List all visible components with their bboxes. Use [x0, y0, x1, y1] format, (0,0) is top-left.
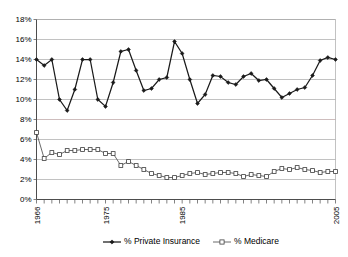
legend-label-medicare: % Medicare: [234, 236, 279, 246]
data-point-medicare-1985: [180, 174, 184, 178]
data-point-medicare-1973: [88, 148, 92, 152]
data-point-medicare-1991: [226, 171, 230, 175]
data-point-medicare-1994: [249, 173, 253, 177]
ytick-label-6: 6%: [20, 135, 32, 144]
data-point-medicare-2001: [303, 168, 307, 172]
legend-label-private-insurance: % Private Insurance: [124, 236, 200, 246]
data-point-medicare-1979: [134, 164, 138, 168]
data-point-private-2004: [326, 56, 330, 60]
data-point-medicare-1975: [104, 152, 108, 156]
ytick-label-18: 18%: [15, 15, 31, 24]
data-point-private-1980: [142, 89, 146, 93]
data-point-medicare-1982: [157, 174, 161, 178]
ytick-label-8: 8%: [20, 115, 32, 124]
data-point-medicare-1970: [65, 149, 69, 153]
ytick-label-12: 12%: [15, 75, 31, 84]
ytick-label-2: 2%: [20, 175, 32, 184]
series-line-private-insurance: [37, 42, 336, 111]
data-point-medicare-1999: [288, 168, 292, 172]
ytick-label-4: 4%: [20, 155, 32, 164]
data-point-medicare-1983: [165, 176, 169, 180]
ytick-label-0: 0%: [20, 195, 32, 204]
xtick-label-1975: 1975: [102, 206, 111, 224]
data-point-medicare-1977: [119, 164, 123, 168]
data-point-medicare-1996: [265, 175, 269, 179]
xtick-label-2005: 2005: [332, 206, 341, 224]
ytick-label-14: 14%: [15, 55, 31, 64]
data-point-medicare-1987: [196, 171, 200, 175]
chart-container: 0%2%4%6%8%10%12%14%16%18%196619751985200…: [0, 0, 348, 257]
line-chart: 0%2%4%6%8%10%12%14%16%18%196619751985200…: [0, 0, 348, 257]
data-point-private-1989: [211, 74, 215, 78]
data-point-medicare-1978: [127, 160, 131, 164]
data-point-medicare-1986: [188, 172, 192, 176]
ytick-label-10: 10%: [15, 95, 31, 104]
data-point-medicare-1993: [242, 175, 246, 179]
legend-marker-private-insurance: [110, 240, 114, 244]
data-point-private-1978: [127, 48, 131, 52]
data-point-medicare-1969: [58, 153, 62, 157]
data-point-medicare-1992: [234, 172, 238, 176]
data-point-medicare-1990: [219, 171, 223, 175]
data-point-medicare-1980: [142, 168, 146, 172]
data-point-private-1979: [134, 69, 138, 73]
data-point-medicare-2005: [334, 170, 338, 174]
data-point-medicare-1989: [211, 172, 215, 176]
data-point-medicare-2004: [326, 170, 330, 174]
data-point-private-1986: [188, 78, 192, 82]
xtick-label-1966: 1966: [33, 206, 42, 224]
data-point-medicare-1966: [35, 131, 39, 135]
data-point-medicare-1968: [50, 151, 54, 155]
data-point-medicare-1974: [96, 148, 100, 152]
data-point-medicare-1984: [173, 176, 177, 180]
data-point-private-2005: [334, 58, 338, 62]
data-point-medicare-2002: [311, 169, 315, 173]
ytick-label-16: 16%: [15, 35, 31, 44]
data-point-private-1973: [88, 58, 92, 62]
data-point-private-1983: [165, 76, 169, 80]
data-point-private-1972: [81, 58, 85, 62]
xtick-label-1985: 1985: [178, 206, 187, 224]
data-point-medicare-1988: [203, 173, 207, 177]
data-point-medicare-2000: [295, 166, 299, 170]
data-point-medicare-2003: [318, 171, 322, 175]
data-point-medicare-1967: [42, 157, 46, 161]
legend-marker-medicare: [220, 240, 224, 244]
data-point-private-1976: [111, 81, 115, 85]
data-point-private-1977: [119, 50, 123, 54]
data-point-medicare-1997: [272, 170, 276, 174]
data-point-medicare-1981: [150, 172, 154, 176]
data-point-private-1971: [73, 88, 77, 92]
data-point-medicare-1976: [111, 152, 115, 156]
data-point-medicare-1995: [257, 174, 261, 178]
data-point-medicare-1998: [280, 167, 284, 171]
data-point-medicare-1971: [73, 149, 77, 153]
data-point-medicare-1972: [81, 148, 85, 152]
